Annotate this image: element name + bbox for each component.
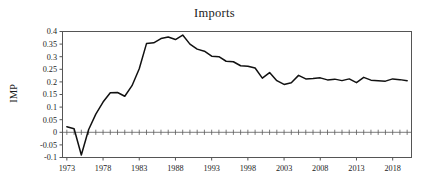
y-tick-label: 0.25 — [43, 65, 57, 74]
zero-reference-group — [63, 130, 412, 135]
y-tick-label: 0.2 — [47, 78, 57, 87]
y-tick-label: 0.3 — [47, 53, 57, 62]
x-tick-label: 1973 — [59, 164, 75, 173]
x-tick-label: 2008 — [312, 164, 328, 173]
y-tick-label: 0.35 — [43, 40, 57, 49]
x-tick-label: 2018 — [384, 164, 400, 173]
x-tick-label: 1988 — [167, 164, 183, 173]
x-tick-label: 1998 — [240, 164, 256, 173]
y-tick-group: 0.40.350.30.250.20.150.10.050-0.05-0.1 — [40, 27, 63, 162]
y-tick-label: -0.05 — [40, 141, 57, 150]
y-tick-label: 0 — [53, 128, 57, 137]
y-tick-label: 0.15 — [43, 90, 57, 99]
plot-area: 0.40.350.30.250.20.150.10.050-0.05-0.1 1… — [0, 0, 429, 187]
x-tick-label: 1983 — [131, 164, 147, 173]
data-series-line — [67, 35, 407, 155]
y-tick-label: 0.05 — [43, 116, 57, 125]
y-tick-label: 0.4 — [47, 27, 57, 36]
y-tick-label: 0.1 — [47, 103, 57, 112]
x-tick-label: 1993 — [203, 164, 219, 173]
chart-figure: Imports IMP 0.40.350.30.250.20.150.10.05… — [0, 0, 429, 187]
x-tick-label: 2013 — [348, 164, 364, 173]
axis-frame — [63, 32, 412, 158]
x-tick-label: 2003 — [276, 164, 292, 173]
y-tick-label: -0.1 — [44, 153, 57, 162]
x-tick-label: 1978 — [95, 164, 111, 173]
x-tick-group: 1973197819831988199319982003200820132018 — [59, 158, 401, 173]
